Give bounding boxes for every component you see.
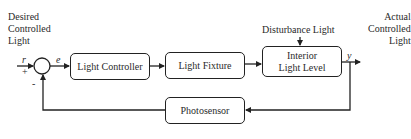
interior-label-line1: Interior — [287, 50, 317, 62]
input-label-line3: Light — [8, 35, 51, 47]
interior-light-level-block: Interior Light Level — [262, 46, 342, 77]
input-label: Desired Controlled Light — [8, 11, 51, 47]
output-label-line1: Actual — [368, 11, 411, 23]
disturbance-label: Disturbance Light — [262, 24, 334, 36]
output-signal-label: y — [347, 50, 351, 62]
output-label-line3: Light — [368, 35, 411, 47]
feedback-to-junction-line — [43, 75, 165, 110]
minus-sign: - — [32, 78, 35, 90]
light-controller-label: Light Controller — [77, 61, 142, 73]
plus-sign: + — [22, 66, 28, 78]
error-signal-label: e — [56, 54, 60, 66]
input-label-line2: Controlled — [8, 23, 51, 35]
photosensor-label: Photosensor — [181, 105, 230, 117]
light-fixture-label: Light Fixture — [178, 60, 231, 72]
light-fixture-block: Light Fixture — [165, 52, 245, 79]
output-label-line2: Controlled — [368, 23, 411, 35]
input-label-line1: Desired — [8, 11, 51, 23]
output-label: Actual Controlled Light — [368, 11, 411, 47]
interior-label-line2: Light Level — [279, 62, 326, 74]
summing-junction — [34, 58, 50, 74]
reference-signal-label: r — [22, 54, 26, 66]
light-controller-block: Light Controller — [70, 53, 150, 80]
photosensor-block: Photosensor — [165, 97, 245, 124]
